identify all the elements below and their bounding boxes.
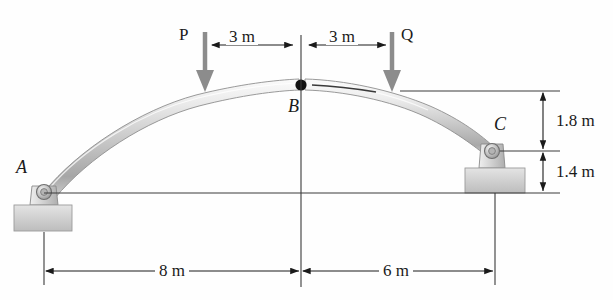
- load-arrow-p: [196, 32, 214, 92]
- dimension-label-6m: 6 m: [379, 262, 413, 279]
- arch-diagram: P Q 3 m 3 m A B C 1.8 m 1.4 m 8 m 6 m: [0, 0, 613, 300]
- diagram-canvas: [0, 0, 613, 300]
- load-label-q: Q: [401, 26, 413, 43]
- dimension-label-18m: 1.8 m: [556, 112, 595, 129]
- load-arrow-q: [383, 32, 401, 92]
- point-label-a: A: [16, 158, 27, 176]
- dimension-label-3m-left: 3 m: [226, 28, 258, 45]
- arch-segment-ab: [44, 79, 299, 198]
- point-label-c: C: [494, 115, 506, 133]
- point-label-b: B: [288, 97, 299, 115]
- load-label-p: P: [179, 26, 188, 43]
- dimension-label-8m: 8 m: [155, 262, 189, 279]
- dimension-label-3m-right: 3 m: [326, 28, 358, 45]
- dimension-label-14m: 1.4 m: [556, 163, 595, 180]
- support-a: [14, 185, 72, 232]
